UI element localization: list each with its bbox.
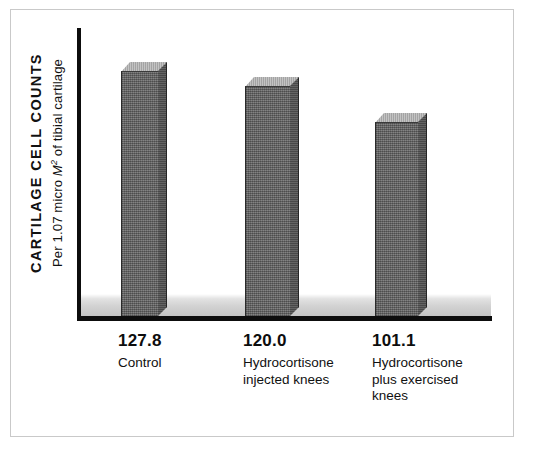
bar-side-face [290, 77, 299, 316]
category-name: Control [118, 355, 233, 372]
bar-front-face [121, 71, 158, 316]
bar-front-face [245, 86, 290, 316]
category-value: 101.1 [372, 330, 500, 351]
category-label-hydrocortisone-injected: 120.0 Hydrocortisone injected knees [243, 330, 368, 388]
bar-chart-plot-area: CARTILAGE CELL COUNTS Per 1.07 micro M2 … [0, 0, 536, 450]
category-label-hydrocortisone-exercised: 101.1 Hydrocortisone plus exercised knee… [372, 330, 500, 405]
bar-control[interactable] [121, 71, 158, 316]
category-name: Hydrocortisone plus exercised knees [372, 355, 500, 405]
category-value: 127.8 [118, 330, 233, 351]
chart-page: CARTILAGE CELL COUNTS Per 1.07 micro M2 … [0, 0, 536, 450]
x-axis-baseline [77, 316, 492, 321]
category-label-control: 127.8 Control [118, 330, 233, 372]
y-axis-title-main: CARTILAGE CELL COUNTS [27, 18, 45, 308]
y-axis-title-sub: Per 1.07 micro M2 of tibial cartilage [46, 18, 66, 308]
bar-side-face [418, 113, 427, 316]
y-axis-title: CARTILAGE CELL COUNTS Per 1.07 micro M2 … [27, 18, 73, 308]
category-name: Hydrocortisone injected knees [243, 355, 368, 388]
bar-hydrocortisone-injected[interactable] [245, 86, 290, 316]
y-axis-unit-symbol: M [50, 165, 65, 176]
y-axis-line [77, 28, 81, 320]
bar-front-face [375, 122, 418, 316]
bar-hydrocortisone-exercised[interactable] [375, 122, 418, 316]
bar-side-face [158, 62, 167, 316]
category-value: 120.0 [243, 330, 368, 351]
y-axis-unit-exponent: 2 [49, 160, 59, 165]
